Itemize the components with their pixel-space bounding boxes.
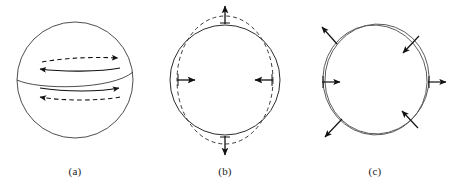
panel-a-caption: (a)	[0, 164, 150, 178]
panel-b-caption: (b)	[150, 164, 300, 178]
panel-a: (a)	[0, 0, 150, 195]
arrow-upper-dashed-right	[42, 57, 118, 62]
arrow-upper-right-inward	[403, 36, 419, 53]
arrow-lower-dashed-left	[40, 97, 120, 100]
panel-b-diagram	[150, 0, 300, 165]
panel-c-diagram	[300, 0, 450, 165]
panel-c-caption: (c)	[300, 164, 450, 178]
panel-c: (c)	[300, 0, 450, 195]
equator-line	[17, 72, 133, 87]
circle-reference	[315, 18, 435, 143]
panel-a-diagram	[0, 0, 150, 165]
circle-displaced	[317, 17, 437, 142]
arrow-upper-left-outward	[322, 27, 337, 44]
arrow-lower-left-outward	[325, 119, 342, 137]
figure-container: (a) (b)	[0, 0, 452, 195]
panel-b: (b)	[150, 0, 300, 195]
sphere-outline	[17, 22, 133, 138]
arrow-upper-solid-left	[40, 68, 120, 71]
arrow-lower-solid-right	[40, 88, 119, 91]
